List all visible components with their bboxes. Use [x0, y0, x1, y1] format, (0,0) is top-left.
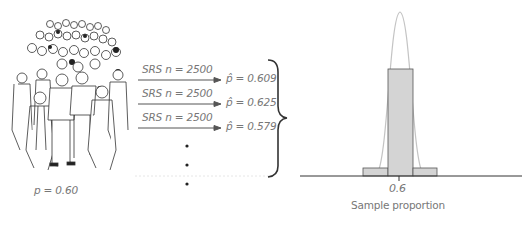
histogram-bar-center: [388, 69, 413, 176]
x-axis-title: Sample proportion: [351, 199, 445, 211]
x-axis-tick-label: 0.6: [389, 182, 406, 195]
arrow-icons: [138, 78, 221, 131]
histogram-bar-left: [363, 168, 388, 176]
diagram-graphics: [0, 0, 532, 225]
right-curly-brace-icon: [268, 60, 287, 177]
vertical-ellipsis-icon: [185, 144, 188, 185]
histogram-bar-right: [413, 168, 437, 176]
sampling-distribution-histogram: [300, 12, 522, 181]
